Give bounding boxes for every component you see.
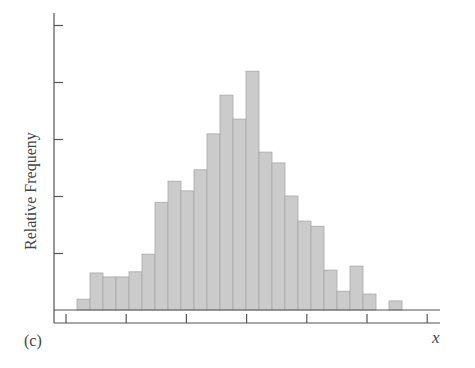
histogram-bar <box>233 119 246 310</box>
panel-label: (c) <box>24 332 42 350</box>
histogram-bar <box>246 71 259 310</box>
x-axis-label: x <box>432 328 440 348</box>
histogram-bar <box>194 170 207 310</box>
histogram-bar <box>220 95 233 310</box>
histogram-bars <box>77 71 402 310</box>
histogram-bar <box>116 277 129 310</box>
histogram-bar <box>129 272 142 310</box>
histogram-bar <box>285 196 298 310</box>
histogram-bar <box>350 266 363 310</box>
histogram-bar <box>363 294 376 310</box>
x-ticks <box>66 314 427 323</box>
histogram-bar <box>259 152 272 310</box>
histogram-chart <box>0 0 475 368</box>
histogram-bar <box>272 163 285 310</box>
histogram-bar <box>311 226 324 310</box>
histogram-bar <box>337 291 350 310</box>
histogram-bar <box>155 202 168 310</box>
histogram-bar <box>324 270 337 310</box>
histogram-bar <box>207 134 220 310</box>
histogram-bar <box>77 299 90 310</box>
histogram-bar <box>142 254 155 310</box>
histogram-bar <box>298 221 311 310</box>
histogram-bar <box>168 181 181 310</box>
histogram-bar <box>389 301 402 310</box>
y-ticks <box>54 26 63 254</box>
histogram-bar <box>103 277 116 310</box>
y-axis-label: Relative Frequeny <box>22 132 40 250</box>
histogram-bar <box>181 191 194 310</box>
histogram-bar <box>90 273 103 310</box>
